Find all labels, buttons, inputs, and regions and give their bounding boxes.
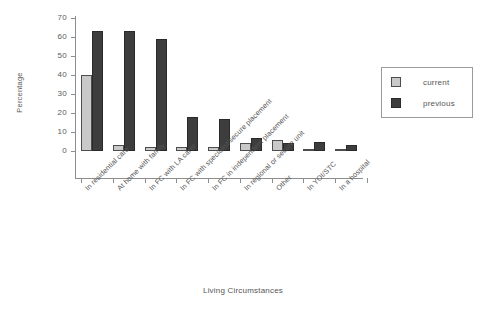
bar-previous [92,31,103,151]
y-tick-label: 50 [58,51,68,60]
x-tick-label: In YOI/STC [305,159,338,192]
bar-chart: Percentage 010203040506070 In residentia… [0,0,486,315]
x-tick-mark [367,178,368,183]
bar-group [303,18,325,151]
bar-current [335,149,346,151]
x-tick-mark [81,178,82,183]
x-tick-mark [240,178,241,183]
bar-previous [346,145,357,151]
y-tick-mark [71,151,76,152]
x-tick-mark [145,178,146,183]
x-tick-mark [303,178,304,183]
chart-legend: current previous [381,67,473,118]
bar-previous [314,142,325,152]
bar-previous [124,31,135,151]
y-tick-label: 70 [58,13,68,22]
x-tick-mark [208,178,209,183]
legend-swatch-current [391,77,401,87]
bar-group [208,18,230,151]
x-tick-mark [272,178,273,183]
y-axis-tick: 0 [71,151,76,152]
x-tick-mark [176,178,177,183]
y-tick-label: 30 [58,89,68,98]
bar-group [81,18,103,151]
x-tick-label: In a hospital [337,158,372,193]
bar-group [335,18,357,151]
bar-current [303,149,314,151]
y-tick-label: 20 [58,108,68,117]
y-axis-title: Percentage [15,48,24,138]
legend-swatch-previous [391,98,401,108]
x-tick-label: Other [274,173,293,192]
x-tick-mark [335,178,336,183]
y-tick-label: 0 [62,146,67,155]
legend-label-current: current [423,78,449,87]
bar-current [81,75,92,151]
bar-group [113,18,135,151]
plot-area [76,18,362,151]
y-tick-label: 10 [58,127,68,136]
legend-item-current: current [391,77,449,87]
y-tick-label: 60 [58,32,68,41]
x-tick-mark [113,178,114,183]
x-axis-title: Living Circumstances [0,286,486,295]
legend-item-previous: previous [391,98,455,108]
bar-group [145,18,167,151]
legend-label-previous: previous [423,99,455,108]
bar-group [176,18,198,151]
y-tick-label: 40 [58,70,68,79]
bar-previous [156,39,167,151]
